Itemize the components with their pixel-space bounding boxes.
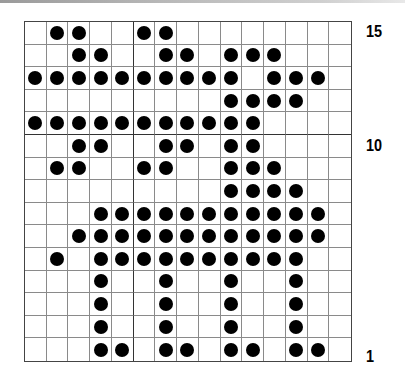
grid-cell-r15-c1 xyxy=(25,22,47,45)
grid-cell-r5-c9 xyxy=(199,248,221,271)
filled-dot-icon xyxy=(159,116,173,130)
grid-cell-r7-c7 xyxy=(155,203,177,226)
grid-cell-r14-c2 xyxy=(47,45,69,68)
grid-cell-r7-c15 xyxy=(329,203,351,226)
grid-cell-r8-c15 xyxy=(329,180,351,203)
filled-dot-icon xyxy=(289,207,303,221)
filled-dot-icon xyxy=(267,229,281,243)
grid-cell-r3-c1 xyxy=(25,293,47,316)
grid-cell-r7-c2 xyxy=(47,203,69,226)
grid-cell-r13-c3 xyxy=(68,67,90,90)
grid-cell-r4-c1 xyxy=(25,271,47,294)
filled-dot-icon xyxy=(50,252,64,266)
grid-cell-r7-c1 xyxy=(25,203,47,226)
grid-cell-r8-c9 xyxy=(199,180,221,203)
grid-cell-r5-c13 xyxy=(286,248,308,271)
grid-cell-r1-c2 xyxy=(47,338,69,361)
grid-cell-r7-c4 xyxy=(90,203,112,226)
filled-dot-icon xyxy=(137,116,151,130)
filled-dot-icon xyxy=(224,48,238,62)
grid-cell-r5-c1 xyxy=(25,248,47,271)
filled-dot-icon xyxy=(115,343,129,357)
grid-cell-r3-c7 xyxy=(155,293,177,316)
filled-dot-icon xyxy=(180,139,194,153)
grid-cell-r3-c13 xyxy=(286,293,308,316)
grid-cell-r1-c14 xyxy=(308,338,330,361)
grid-cell-r13-c7 xyxy=(155,67,177,90)
filled-dot-icon xyxy=(267,252,281,266)
filled-dot-icon xyxy=(180,229,194,243)
grid-cell-r5-c14 xyxy=(308,248,330,271)
grid-cell-r15-c5 xyxy=(112,22,134,45)
filled-dot-icon xyxy=(72,161,86,175)
filled-dot-icon xyxy=(246,207,260,221)
filled-dot-icon xyxy=(289,274,303,288)
grid-cell-r5-c15 xyxy=(329,248,351,271)
grid-cell-r8-c11 xyxy=(242,180,264,203)
grid-cell-r2-c8 xyxy=(177,316,199,339)
grid-cell-r13-c5 xyxy=(112,67,134,90)
grid-cell-r1-c5 xyxy=(112,338,134,361)
filled-dot-icon xyxy=(224,252,238,266)
row-label-15: 15 xyxy=(366,22,382,42)
grid-cell-r11-c8 xyxy=(177,112,199,135)
grid-cell-r9-c9 xyxy=(199,158,221,181)
grid-cell-r7-c3 xyxy=(68,203,90,226)
grid-cell-r14-c12 xyxy=(264,45,286,68)
grid-cell-r10-c7 xyxy=(155,135,177,158)
grid-cell-r6-c1 xyxy=(25,225,47,248)
filled-dot-icon xyxy=(159,297,173,311)
grid-cell-r1-c9 xyxy=(199,338,221,361)
filled-dot-icon xyxy=(72,229,86,243)
filled-dot-icon xyxy=(267,161,281,175)
grid-cell-r12-c9 xyxy=(199,90,221,113)
filled-dot-icon xyxy=(246,94,260,108)
grid-cell-r14-c13 xyxy=(286,45,308,68)
filled-dot-icon xyxy=(72,139,86,153)
grid-cell-r3-c5 xyxy=(112,293,134,316)
filled-dot-icon xyxy=(94,139,108,153)
grid-cell-r9-c8 xyxy=(177,158,199,181)
grid-cell-r12-c8 xyxy=(177,90,199,113)
grid-cell-r14-c15 xyxy=(329,45,351,68)
grid-cell-r3-c11 xyxy=(242,293,264,316)
grid-cell-r11-c13 xyxy=(286,112,308,135)
filled-dot-icon xyxy=(202,207,216,221)
grid-cell-r8-c5 xyxy=(112,180,134,203)
stitch-chart-grid xyxy=(24,21,352,362)
grid-cell-r3-c15 xyxy=(329,293,351,316)
grid-cell-r11-c11 xyxy=(242,112,264,135)
grid-cell-r3-c2 xyxy=(47,293,69,316)
grid-cell-r6-c12 xyxy=(264,225,286,248)
grid-cell-r11-c9 xyxy=(199,112,221,135)
filled-dot-icon xyxy=(137,252,151,266)
grid-cell-r6-c13 xyxy=(286,225,308,248)
filled-dot-icon xyxy=(246,184,260,198)
grid-cell-r7-c10 xyxy=(221,203,243,226)
grid-cell-r15-c3 xyxy=(68,22,90,45)
grid-cell-r5-c8 xyxy=(177,248,199,271)
filled-dot-icon xyxy=(246,161,260,175)
grid-cell-r11-c15 xyxy=(329,112,351,135)
grid-cell-r1-c15 xyxy=(329,338,351,361)
filled-dot-icon xyxy=(159,274,173,288)
grid-cell-r12-c1 xyxy=(25,90,47,113)
grid-cell-r6-c4 xyxy=(90,225,112,248)
grid-cell-r15-c9 xyxy=(199,22,221,45)
filled-dot-icon xyxy=(224,229,238,243)
grid-cell-r1-c3 xyxy=(68,338,90,361)
grid-cell-r12-c2 xyxy=(47,90,69,113)
grid-cell-r15-c4 xyxy=(90,22,112,45)
grid-cell-r4-c12 xyxy=(264,271,286,294)
filled-dot-icon xyxy=(224,274,238,288)
filled-dot-icon xyxy=(267,184,281,198)
grid-cell-r12-c5 xyxy=(112,90,134,113)
grid-cell-r8-c10 xyxy=(221,180,243,203)
grid-cell-r1-c4 xyxy=(90,338,112,361)
grid-cell-r7-c11 xyxy=(242,203,264,226)
filled-dot-icon xyxy=(137,161,151,175)
grid-cell-r9-c7 xyxy=(155,158,177,181)
grid-cell-r12-c3 xyxy=(68,90,90,113)
filled-dot-icon xyxy=(267,71,281,85)
top-border-bar xyxy=(0,0,405,3)
